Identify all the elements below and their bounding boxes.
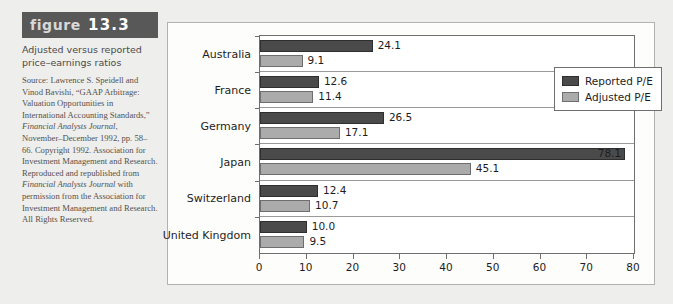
- legend-item[interactable]: Adjusted P/E: [562, 89, 653, 105]
- bar-value-label: 24.1: [378, 39, 401, 51]
- bar-adjusted[interactable]: [260, 55, 303, 67]
- chart-legend: Reported P/EAdjusted P/E: [554, 67, 662, 111]
- x-axis-tick-label: 60: [533, 261, 546, 273]
- bar-reported[interactable]: [260, 76, 319, 88]
- x-axis: 01020304050607080: [259, 254, 635, 284]
- bar-value-label: 9.5: [309, 235, 326, 247]
- bar-value-label: 11.4: [318, 90, 341, 102]
- bar-adjusted[interactable]: [260, 200, 310, 212]
- legend-swatch-icon: [562, 92, 579, 102]
- y-axis-tick: [255, 181, 260, 182]
- y-axis-tick: [255, 36, 260, 37]
- bar-row-reported: 26.5: [260, 112, 634, 124]
- chart-group-germany: Germany26.517.1: [260, 108, 634, 144]
- figure-number-label: 13.3: [88, 16, 130, 34]
- source-italic-1: Financial Analysts Journal: [22, 121, 115, 131]
- bar-reported[interactable]: [260, 185, 318, 197]
- x-axis-tick: [540, 254, 541, 259]
- x-axis-tick-label: 30: [393, 261, 406, 273]
- x-axis-tick-label: 0: [256, 261, 263, 273]
- figure-source-note: Source: Lawrence S. Speidell and Vinod B…: [22, 75, 158, 226]
- bar-value-label: 45.1: [476, 162, 499, 174]
- bar-row-adjusted: 9.5: [260, 236, 634, 248]
- x-axis-tick-label: 40: [439, 261, 452, 273]
- bar-reported[interactable]: [260, 221, 307, 233]
- x-axis-tick-label: 20: [346, 261, 359, 273]
- chart-panel: Australia24.19.1France12.611.4Germany26.…: [167, 22, 655, 285]
- category-label: Germany: [200, 119, 251, 132]
- figure-page: figure 13.3 Adjusted versus reported pri…: [0, 0, 673, 304]
- y-axis-tick: [255, 144, 260, 145]
- bar-reported[interactable]: [260, 112, 384, 124]
- bar-value-label: 12.6: [324, 75, 347, 87]
- x-axis-tick: [399, 254, 400, 259]
- x-axis-tick: [446, 254, 447, 259]
- bar-adjusted[interactable]: [260, 91, 313, 103]
- bar-adjusted[interactable]: [260, 163, 471, 175]
- legend-label: Reported P/E: [585, 75, 653, 87]
- bar-value-label: 26.5: [389, 111, 412, 123]
- figure-caption-column: figure 13.3 Adjusted versus reported pri…: [22, 12, 158, 226]
- source-italic-2: Financial Analysts Journal: [22, 179, 115, 189]
- x-axis-tick: [353, 254, 354, 259]
- figure-word-label: figure: [30, 17, 81, 33]
- x-axis-tick: [493, 254, 494, 259]
- bar-row-adjusted: 10.7: [260, 200, 634, 212]
- y-axis-tick: [255, 217, 260, 218]
- category-label: France: [214, 83, 251, 96]
- y-axis-tick: [255, 108, 260, 109]
- bar-value-label: 78.1: [598, 147, 621, 159]
- bar-value-label: 17.1: [345, 126, 368, 138]
- bar-row-adjusted: 45.1: [260, 163, 634, 175]
- x-axis-tick-label: 10: [299, 261, 312, 273]
- category-label: Japan: [220, 156, 251, 169]
- bar-value-label: 9.1: [308, 54, 325, 66]
- x-axis-tick-label: 70: [580, 261, 593, 273]
- bar-value-label: 10.7: [315, 199, 338, 211]
- x-axis-tick: [586, 254, 587, 259]
- bar-row-reported: 24.1: [260, 40, 634, 52]
- legend-item[interactable]: Reported P/E: [562, 73, 653, 89]
- bar-row-adjusted: 17.1: [260, 127, 634, 139]
- figure-number-banner: figure 13.3: [22, 12, 158, 38]
- bar-reported[interactable]: [260, 148, 625, 160]
- y-axis-tick: [255, 72, 260, 73]
- bar-value-label: 12.4: [323, 184, 346, 196]
- chart-group-united-kingdom: United Kingdom10.09.5: [260, 217, 634, 253]
- source-text-1: Source: Lawrence S. Speidell and Vinod B…: [22, 75, 150, 120]
- x-axis-tick: [633, 254, 634, 259]
- bar-row-reported: 12.4: [260, 185, 634, 197]
- chart-group-japan: Japan78.145.1: [260, 144, 634, 180]
- bar-row-reported: 78.1: [260, 148, 634, 160]
- x-axis-tick: [259, 254, 260, 259]
- bar-adjusted[interactable]: [260, 236, 304, 248]
- figure-title: Adjusted versus reported price–earnings …: [22, 44, 158, 69]
- legend-label: Adjusted P/E: [585, 91, 651, 103]
- x-axis-tick-label: 50: [486, 261, 499, 273]
- bar-row-reported: 10.0: [260, 221, 634, 233]
- x-axis-tick: [306, 254, 307, 259]
- category-label: United Kingdom: [163, 228, 251, 241]
- bar-value-label: 10.0: [312, 220, 335, 232]
- bar-row-adjusted: 9.1: [260, 55, 634, 67]
- legend-swatch-icon: [562, 76, 579, 86]
- category-label: Switzerland: [187, 192, 251, 205]
- chart-group-switzerland: Switzerland12.410.7: [260, 181, 634, 217]
- bar-reported[interactable]: [260, 40, 373, 52]
- category-label: Australia: [202, 47, 251, 60]
- x-axis-tick-label: 80: [626, 261, 639, 273]
- bar-adjusted[interactable]: [260, 127, 340, 139]
